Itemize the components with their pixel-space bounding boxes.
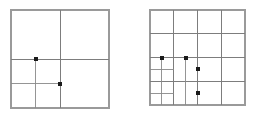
diagram-canvas (0, 0, 258, 117)
hanging-node-b (58, 82, 62, 86)
figure-right-svg (129, 0, 258, 117)
hanging-node-a (160, 56, 164, 60)
hanging-node-a (34, 57, 38, 61)
hanging-node-c (196, 67, 200, 71)
hanging-node-b (184, 56, 188, 60)
figure-left-svg (0, 0, 129, 117)
coarse-refinement-square (11, 10, 109, 108)
figure-left-panel (0, 0, 129, 117)
hanging-node-d (196, 91, 200, 95)
figure-right-panel (129, 0, 258, 117)
fine-refinement-square (150, 10, 245, 105)
